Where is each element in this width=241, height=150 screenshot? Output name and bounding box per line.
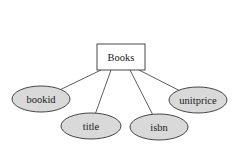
attribute-isbn: isbn [130,114,188,140]
attributes: bookidtitleisbnunitprice [12,86,227,140]
edge-title [96,70,111,113]
er-diagram: Books bookidtitleisbnunitprice [0,0,241,150]
edge-isbn [130,70,153,114]
entity-books: Books [97,44,145,70]
attribute-unitprice: unitprice [169,87,227,113]
attribute-label: unitprice [179,95,217,106]
edge-unitprice [139,70,179,90]
attribute-label: title [83,121,100,132]
entity-label: Books [108,52,135,63]
attribute-bookid: bookid [12,86,70,112]
relationship-lines [61,70,179,114]
attribute-label: bookid [26,94,56,105]
attribute-title: title [61,113,121,139]
edge-bookid [61,70,101,89]
attribute-label: isbn [150,122,168,133]
